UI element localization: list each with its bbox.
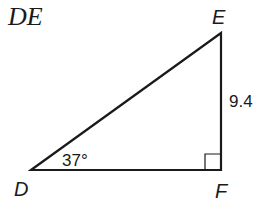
vertex-label-f: F [215,180,229,202]
angle-d-measure: 37° [62,151,88,170]
vertex-label-e: E [212,6,226,28]
right-angle-marker [205,154,221,170]
side-ef-length: 9.4 [229,92,253,111]
vertex-label-d: D [14,178,28,200]
right-triangle-diagram: E D F 9.4 37° [0,0,262,204]
triangle-def [31,33,221,170]
